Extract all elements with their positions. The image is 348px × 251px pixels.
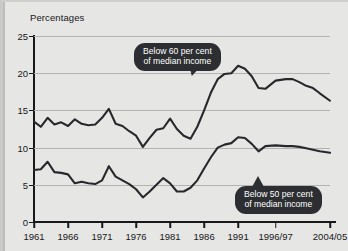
y-tick-mark xyxy=(29,185,33,186)
x-tick-mark xyxy=(275,223,277,228)
y-tick-label: 0 xyxy=(23,217,28,228)
below-50-callout-line1: Below 50 per cent xyxy=(244,189,313,199)
x-tick-mark xyxy=(329,223,331,228)
series-line-below-60 xyxy=(34,66,330,147)
x-tick-mark xyxy=(67,223,69,228)
x-tick-label: 1976 xyxy=(125,231,146,242)
x-tick-mark xyxy=(203,223,205,228)
y-tick-label: 5 xyxy=(23,179,28,190)
x-tick-mark xyxy=(169,223,171,228)
x-tick-label: 2004/05 xyxy=(313,231,347,242)
y-tick-mark xyxy=(29,148,33,149)
y-tick-mark xyxy=(29,36,33,37)
x-tick-label: 1991 xyxy=(228,231,249,242)
y-tick-label: 20 xyxy=(17,68,28,79)
x-tick-label: 1986 xyxy=(194,231,215,242)
x-tick-mark xyxy=(237,223,239,228)
below-60-callout-pointer xyxy=(187,65,202,76)
x-tick-mark xyxy=(101,223,103,228)
x-tick-mark xyxy=(33,223,35,228)
below-60-callout-line1: Below 60 per cent xyxy=(143,46,212,56)
x-tick-label: 1971 xyxy=(91,231,112,242)
x-tick-label: 1961 xyxy=(23,231,44,242)
below-50-callout: Below 50 per cent of median income xyxy=(235,186,322,214)
y-tick-mark xyxy=(29,73,33,74)
below-50-callout-line2: of median income xyxy=(244,199,313,209)
x-tick-label: 1966 xyxy=(57,231,78,242)
x-tick-mark xyxy=(135,223,137,228)
y-axis-title: Percentages xyxy=(30,12,84,23)
below-60-callout: Below 60 per cent of median income xyxy=(134,43,221,71)
y-tick-label: 15 xyxy=(17,105,28,116)
x-tick-label: 1996/97 xyxy=(258,231,292,242)
y-tick-label: 25 xyxy=(17,31,28,42)
chart-figure: Percentages 0510152025 19611966197119761… xyxy=(0,0,348,251)
x-tick-label: 1981 xyxy=(160,231,181,242)
y-tick-mark xyxy=(29,110,33,111)
y-tick-label: 10 xyxy=(17,142,28,153)
below-50-callout-pointer xyxy=(252,176,264,187)
